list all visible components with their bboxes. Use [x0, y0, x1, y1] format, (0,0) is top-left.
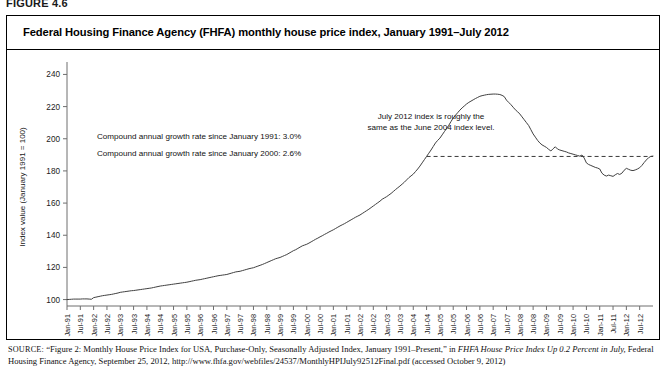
- x-axis-tick-label: Jan-04: [409, 314, 418, 337]
- x-axis-tick-label: Jan-95: [170, 314, 179, 337]
- chart-annotations: Compound annual growth rate since Januar…: [97, 112, 494, 158]
- x-axis-tick-label: Jan-08: [516, 314, 525, 337]
- annotation-reference-line-1: July 2012 index is roughly the: [378, 112, 485, 121]
- y-axis-tick-label: 240: [46, 70, 60, 79]
- x-axis-tick-label: Jan-11: [596, 314, 605, 336]
- x-axis-tick-label: Jul-00: [316, 314, 325, 334]
- x-axis-tick-label: Jan-07: [489, 314, 498, 337]
- x-axis-tick-label: Jul-96: [210, 314, 219, 334]
- x-axis-tick-label: Jan-03: [383, 314, 392, 337]
- y-axis-title: Index value (January 1991 = 100): [18, 127, 27, 247]
- x-axis-tick-label: Jul-93: [130, 314, 139, 334]
- x-axis-tick-label: Jul-10: [582, 314, 591, 334]
- x-axis-tick-label: Jul-91: [76, 314, 85, 334]
- x-axis-tick-label: Jan-93: [116, 314, 125, 337]
- line-chart: 100120140160180200220240 Jan-91Jul-91Jan…: [7, 16, 661, 339]
- y-axis-tick-label: 140: [46, 231, 60, 240]
- x-axis-tick-label: Jan-10: [569, 314, 578, 337]
- y-axis-tick-label: 220: [46, 103, 60, 112]
- x-axis-tick-label: Jul-12: [636, 314, 645, 334]
- annotation-cagr-2000: Compound annual growth rate since Januar…: [97, 149, 301, 158]
- x-axis-tick-label: Jul-08: [529, 314, 538, 334]
- x-axis-tick-label: Jan-98: [249, 314, 258, 337]
- x-axis-tick-label: Jul-03: [396, 314, 405, 334]
- source-text-italic: FHFA House Price Index Up 0.2 Percent in…: [458, 344, 626, 354]
- x-axis-tick-label: Jul-09: [556, 314, 565, 334]
- y-axis-title-text: Index value (January 1991 = 100): [18, 127, 27, 247]
- y-axis: 100120140160180200220240: [46, 62, 67, 306]
- x-axis-tick-label: Jul-99: [289, 314, 298, 334]
- x-axis-tick-label: Jul-95: [183, 314, 192, 334]
- y-axis-tick-label: 160: [46, 199, 60, 208]
- x-axis-tick-label: Jul-07: [503, 314, 512, 334]
- x-axis-tick-label: Jul-06: [476, 314, 485, 334]
- x-axis-tick-label: Jan-01: [329, 314, 338, 337]
- annotation-cagr-1991: Compound annual growth rate since Januar…: [97, 132, 301, 141]
- x-axis-tick-label: Jan-06: [463, 314, 472, 337]
- x-axis-tick-label: Jul-04: [423, 314, 432, 334]
- x-axis-tick-label: Jul-11: [609, 314, 618, 334]
- x-axis-tick-label: Jan-91: [63, 314, 72, 337]
- x-axis-tick-label: Jan-99: [276, 314, 285, 337]
- y-axis-tick-label: 100: [46, 296, 60, 305]
- x-axis-tick-label: Jan-97: [223, 314, 232, 337]
- y-axis-tick-label: 180: [46, 167, 60, 176]
- x-axis: Jan-91Jul-91Jan-92Jul-92Jan-93Jul-93Jan-…: [63, 306, 653, 337]
- figure-box: Federal Housing Finance Agency (FHFA) mo…: [6, 15, 660, 340]
- annotation-reference-line-2: same as the June 2004 index level.: [368, 123, 495, 132]
- y-axis-tick-label: 200: [46, 135, 60, 144]
- x-axis-tick-label: Jul-92: [103, 314, 112, 334]
- x-axis-tick-label: Jan-92: [90, 314, 99, 337]
- x-axis-tick-label: Jan-09: [542, 314, 551, 337]
- x-axis-tick-label: Jul-98: [263, 314, 272, 334]
- chart-plot-area: 100120140160180200220240 Jan-91Jul-91Jan…: [7, 16, 661, 339]
- x-axis-tick-label: Jul-02: [369, 314, 378, 334]
- x-axis-tick-label: Jul-01: [343, 314, 352, 334]
- x-axis-tick-label: Jan-05: [436, 314, 445, 337]
- source-note: SOURCE: “Figure 2: Monthly House Price I…: [8, 344, 660, 367]
- x-axis-tick-label: Jan-96: [196, 314, 205, 337]
- source-text-a: “Figure 2: Monthly House Price Index for…: [46, 344, 458, 354]
- x-axis-tick-label: Jan-00: [303, 314, 312, 337]
- x-axis-tick-label: Jul-94: [156, 314, 165, 334]
- figure-number: FIGURE 4.6: [6, 0, 68, 9]
- y-axis-tick-label: 120: [46, 263, 60, 272]
- x-axis-tick-label: Jan-02: [356, 314, 365, 337]
- house-price-index-line: [67, 94, 653, 300]
- x-axis-tick-label: Jan-94: [143, 314, 152, 337]
- x-axis-tick-label: Jul-05: [449, 314, 458, 334]
- source-label: SOURCE:: [8, 345, 44, 354]
- x-axis-tick-label: Jan-12: [622, 314, 631, 337]
- x-axis-tick-label: Jul-97: [236, 314, 245, 334]
